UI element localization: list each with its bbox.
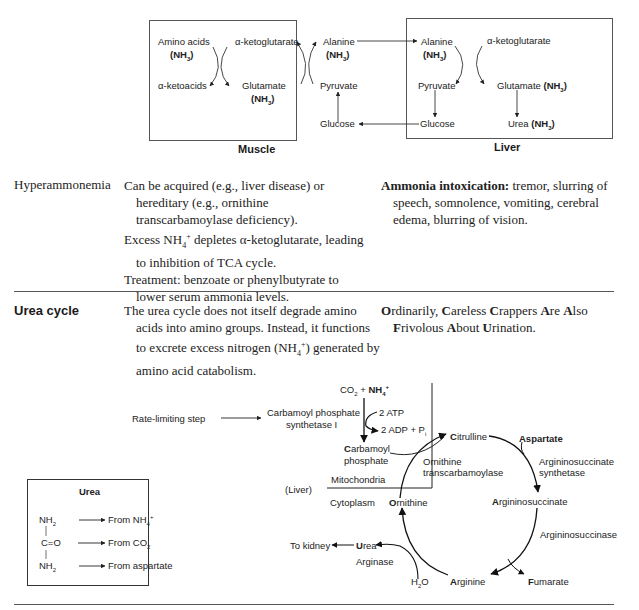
rate-limiting-step: Rate-limiting step: [132, 413, 205, 424]
ass-label-1: Argininosuccinate: [539, 456, 614, 467]
carbamoyl-phosphate-1: Carbamoyl: [344, 443, 390, 454]
argininosuccinase-label: Argininosuccinase: [540, 529, 617, 540]
urea-nh2-top: NH2: [39, 514, 56, 527]
arginase-label: Arginase: [356, 556, 394, 567]
arginine-label: Arginine: [450, 576, 485, 587]
urea-source-aspartate: From aspartate: [108, 560, 172, 571]
otc-label-2: transcarbamoylase: [423, 467, 503, 478]
to-kidney-label: To kidney: [290, 540, 330, 551]
adp-output: 2 ADP + Pi: [381, 424, 426, 437]
argininosuccinate-label: Argininosuccinate: [492, 496, 568, 507]
h2o-label: H2O: [411, 576, 429, 589]
aspartate-label: Aspartate: [519, 433, 563, 444]
mitochondria-label: Mitochondria: [331, 474, 385, 485]
fumarate-label: Fumarate: [528, 576, 569, 587]
carbamoyl-phosphate-2: phosphate: [344, 455, 388, 466]
urea-source-nh4: From NH4+: [108, 514, 153, 527]
otc-label-1: Ornithine: [423, 456, 462, 467]
cps1-label-2: synthetase I: [286, 419, 337, 430]
ornithine-label: Ornithine: [389, 497, 428, 508]
co2-nh4-input: CO2 + NH4+: [340, 384, 389, 397]
citrulline-label: Citrulline: [450, 431, 487, 442]
urea-carbonyl: C=O: [41, 537, 61, 548]
urea-box-title: Urea: [79, 486, 100, 497]
bottom-divider: [14, 604, 614, 605]
liver-label: (Liver): [285, 484, 312, 495]
cps1-label-1: Carbamoyl phosphate: [267, 407, 360, 418]
atp-input: 2 ATP: [379, 407, 404, 418]
urea-product-label: Urea: [356, 540, 377, 551]
ass-label-2: synthetase: [539, 467, 585, 478]
cytoplasm-label: Cytoplasm: [330, 497, 375, 508]
urea-source-co2: From CO2: [108, 537, 150, 550]
urea-nh2-bottom: NH2: [39, 560, 56, 573]
